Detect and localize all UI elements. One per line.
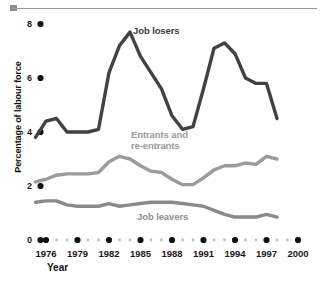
series-annotation-entrants-line2: re-entrants [131, 140, 180, 151]
x-tick-label: 1979 [61, 248, 95, 259]
series-annotation-job-losers: Job losers [133, 25, 180, 36]
x-axis-major-ticks [43, 237, 301, 243]
x-tick-label: 1976 [29, 248, 63, 259]
x-tick-label: 1994 [218, 248, 252, 259]
series-line-entrants-and-re-entrants [36, 156, 278, 184]
y-tick-label: 8 [18, 19, 32, 29]
x-tick-label: 1982 [92, 248, 126, 259]
x-tick-label: 1991 [187, 248, 221, 259]
y-tick-label: 2 [18, 181, 32, 191]
x-tick-label: 2000 [281, 248, 315, 259]
x-tick-label: 1988 [155, 248, 189, 259]
y-axis-title: Percentage of labour force [13, 52, 23, 182]
series-line-job-losers [36, 32, 278, 137]
x-tick-label: 1985 [124, 248, 158, 259]
x-tick-label: 1997 [250, 248, 284, 259]
series-lines [36, 32, 278, 217]
series-annotation-job-leavers: Job leavers [137, 211, 188, 222]
y-tick-label: 0 [18, 235, 32, 245]
series-annotation-entrants-line1: Entrants and [131, 129, 188, 140]
x-axis-title: Year [47, 262, 68, 273]
series-annotation-entrants: Entrants and re-entrants [131, 129, 188, 151]
chart-figure: 02468 1976197919821985198819911994199720… [0, 0, 323, 283]
